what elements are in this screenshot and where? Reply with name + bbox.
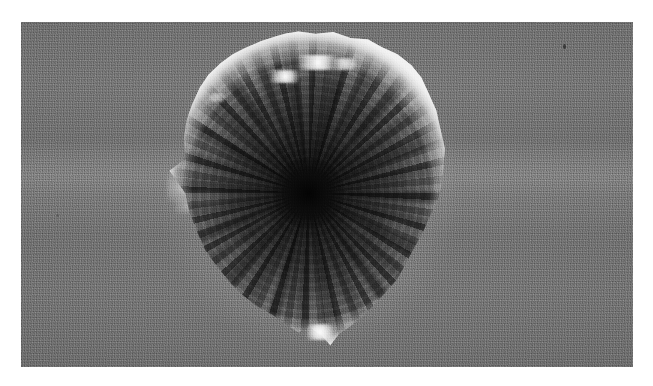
dust-speck-upper-right-icon [563, 44, 566, 49]
microbial-colony [165, 30, 455, 350]
micrograph-figure: Grayscale micrograph of a roughly circul… [0, 0, 653, 386]
dust-speck-lower-left-icon [56, 214, 59, 217]
colony-edge-shadow [165, 30, 455, 350]
photographic-plate [21, 22, 633, 367]
